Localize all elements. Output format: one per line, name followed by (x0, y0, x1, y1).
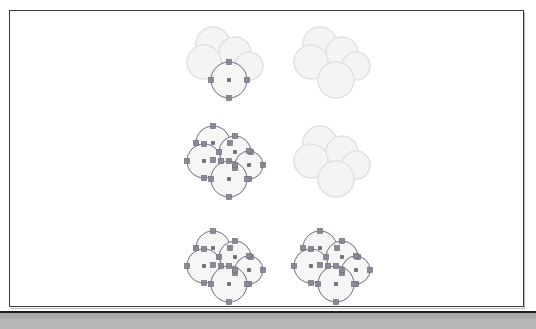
handle-top[interactable] (226, 263, 231, 268)
handle-top[interactable] (317, 228, 322, 233)
status-bar-sheen (0, 313, 536, 318)
handle-left[interactable] (208, 281, 213, 286)
handle-top[interactable] (353, 253, 358, 258)
handle-bottom[interactable] (226, 299, 231, 304)
center-handle[interactable] (202, 159, 206, 163)
center-handle[interactable] (233, 150, 237, 154)
handle-right[interactable] (367, 267, 372, 272)
handle-left[interactable] (232, 162, 237, 167)
canvas-shadow-right (524, 12, 525, 309)
center-handle[interactable] (340, 255, 344, 259)
handle-left[interactable] (184, 263, 189, 268)
shape-circle-bottom[interactable] (318, 62, 354, 98)
cluster-bottom-right[interactable] (292, 229, 378, 307)
handle-top[interactable] (246, 148, 251, 153)
handle-bottom[interactable] (226, 95, 231, 100)
handle-right[interactable] (227, 245, 232, 250)
handle-left[interactable] (339, 267, 344, 272)
handle-bottom[interactable] (226, 194, 231, 199)
handle-left[interactable] (315, 281, 320, 286)
handle-top[interactable] (333, 263, 338, 268)
handle-bottom[interactable] (201, 280, 206, 285)
handle-left[interactable] (323, 254, 328, 259)
handle-right[interactable] (325, 263, 330, 268)
app-root (0, 0, 536, 329)
cluster-middle-left[interactable] (185, 124, 271, 202)
handle-right[interactable] (244, 176, 249, 181)
handle-bottom[interactable] (210, 157, 215, 162)
handle-right[interactable] (227, 140, 232, 145)
handle-right[interactable] (218, 263, 223, 268)
handle-top[interactable] (210, 123, 215, 128)
cluster-top-right[interactable] (292, 25, 378, 103)
handle-top[interactable] (201, 141, 206, 146)
status-bar[interactable] (0, 311, 536, 329)
cluster-middle-right[interactable] (292, 124, 378, 202)
center-handle[interactable] (233, 255, 237, 259)
document-canvas[interactable] (9, 10, 524, 307)
handle-right[interactable] (260, 267, 265, 272)
handle-right[interactable] (334, 245, 339, 250)
center-handle[interactable] (318, 246, 322, 250)
center-handle[interactable] (247, 163, 251, 167)
handle-right[interactable] (244, 77, 249, 82)
handle-top[interactable] (339, 238, 344, 243)
center-handle[interactable] (309, 264, 313, 268)
handle-left[interactable] (216, 254, 221, 259)
center-handle[interactable] (227, 282, 231, 286)
handle-bottom[interactable] (308, 280, 313, 285)
handle-right[interactable] (218, 158, 223, 163)
handle-top[interactable] (232, 133, 237, 138)
handle-left[interactable] (184, 158, 189, 163)
handle-top[interactable] (226, 158, 231, 163)
handle-left[interactable] (193, 140, 198, 145)
handle-left[interactable] (208, 176, 213, 181)
center-handle[interactable] (247, 268, 251, 272)
handle-bottom[interactable] (210, 262, 215, 267)
handle-bottom[interactable] (201, 175, 206, 180)
canvas-shadow-bottom (11, 308, 525, 309)
handle-left[interactable] (232, 267, 237, 272)
handle-left[interactable] (291, 263, 296, 268)
handle-right[interactable] (260, 162, 265, 167)
handle-top[interactable] (246, 253, 251, 258)
cluster-top-left[interactable] (185, 25, 271, 103)
handle-left[interactable] (300, 245, 305, 250)
center-handle[interactable] (334, 282, 338, 286)
handle-right[interactable] (244, 281, 249, 286)
center-handle[interactable] (211, 141, 215, 145)
center-handle[interactable] (354, 268, 358, 272)
handle-bottom[interactable] (333, 299, 338, 304)
center-handle[interactable] (227, 177, 231, 181)
handle-right[interactable] (351, 281, 356, 286)
handle-top[interactable] (232, 238, 237, 243)
handle-top[interactable] (226, 59, 231, 64)
center-handle[interactable] (211, 246, 215, 250)
handle-left[interactable] (193, 245, 198, 250)
handle-top[interactable] (210, 228, 215, 233)
handle-top[interactable] (308, 246, 313, 251)
handle-left[interactable] (208, 77, 213, 82)
cluster-bottom-left[interactable] (185, 229, 271, 307)
handle-top[interactable] (201, 246, 206, 251)
shape-circle-bottom[interactable] (318, 161, 354, 197)
handle-bottom[interactable] (317, 262, 322, 267)
center-handle[interactable] (202, 264, 206, 268)
center-handle[interactable] (227, 78, 231, 82)
handle-left[interactable] (216, 149, 221, 154)
